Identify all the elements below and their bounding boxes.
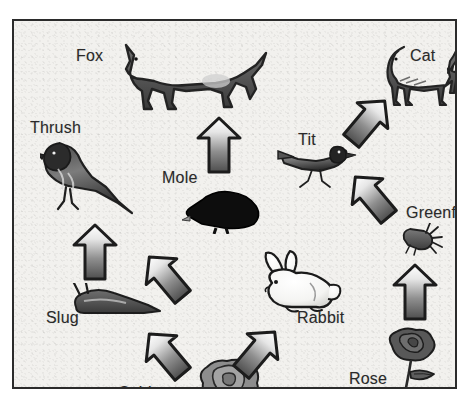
diagram-canvas: Fox Cat	[0, 0, 465, 400]
diagram-frame: Fox Cat	[12, 19, 457, 389]
caption-area	[0, 386, 465, 400]
label-greenfly: Greenfly	[406, 204, 457, 222]
label-rabbit: Rabbit	[297, 309, 344, 327]
greenfly-icon	[400, 223, 444, 257]
label-fox: Fox	[76, 47, 103, 65]
label-mole: Mole	[162, 169, 197, 187]
arrow-mole-to-fox[interactable]	[196, 116, 242, 174]
arrow-slug-to-thrush[interactable]	[72, 223, 118, 281]
label-slug: Slug	[46, 309, 79, 327]
label-thrush: Thrush	[30, 119, 81, 137]
rose-icon	[384, 326, 442, 389]
rabbit-icon	[252, 249, 344, 317]
arrow-cabbage-to-slug-lower[interactable]	[131, 318, 201, 389]
thrush-icon	[40, 139, 136, 219]
mole-icon	[182, 186, 264, 234]
fox-icon	[124, 39, 270, 111]
label-tit: Tit	[298, 131, 316, 149]
arrow-rose-to-greenfly[interactable]	[392, 263, 438, 321]
label-cat: Cat	[410, 47, 436, 65]
